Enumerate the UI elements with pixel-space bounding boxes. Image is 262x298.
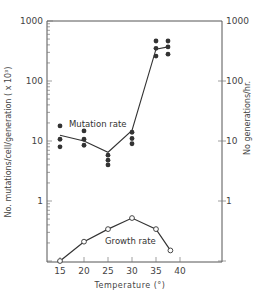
mutation-rate-point (166, 45, 171, 50)
y-right-label-1000: 1000 (226, 16, 249, 26)
x-label-20: 20 (78, 266, 90, 276)
chart: 1000 100 10 1 1000 100 10 1 15 20 25 30 … (0, 0, 262, 298)
right-axis-title: No generations/hr. (243, 81, 252, 155)
x-label-15: 15 (54, 266, 65, 276)
mutation-rate-point (106, 162, 111, 167)
y-left-label-100: 100 (26, 76, 43, 86)
x-label-25: 25 (102, 266, 113, 276)
growth-rate-label: Growth rate (105, 236, 156, 246)
growth-rate-point (168, 248, 173, 253)
growth-rate-point (130, 216, 135, 221)
mutation-rate-point (166, 52, 171, 57)
mutation-rate-point (130, 136, 135, 141)
mutation-rate-point (154, 46, 159, 51)
x-axis-title: Temperature (°) (94, 281, 166, 290)
x-label-40: 40 (174, 266, 186, 276)
mutation-rate-point (82, 143, 87, 148)
mutation-rate-series (58, 39, 171, 168)
growth-rate-point (106, 227, 111, 232)
x-axis-ticks (60, 257, 180, 262)
mutation-rate-point (82, 137, 87, 142)
y-left-label-10: 10 (32, 136, 44, 146)
mutation-rate-point (58, 124, 63, 129)
y-right-label-100: 100 (226, 76, 243, 86)
mutation-rate-point (166, 39, 171, 44)
mutation-rate-point (130, 141, 135, 146)
left-axis-title: No. mutations/cell/generation ( x 10³) (4, 67, 13, 218)
mutation-rate-point (106, 158, 111, 163)
mutation-rate-point (130, 130, 135, 135)
left-axis-ticks (47, 21, 53, 261)
growth-rate-point (58, 259, 63, 264)
mutation-rate-point (154, 39, 159, 44)
mutation-rate-point (58, 137, 63, 142)
y-left-label-1: 1 (37, 196, 43, 206)
mutation-rate-point (58, 144, 63, 149)
y-right-label-10: 10 (226, 136, 238, 146)
mutation-rate-point (106, 153, 111, 158)
growth-rate-point (82, 239, 87, 244)
y-left-label-1000: 1000 (20, 16, 43, 26)
mutation-rate-point (154, 54, 159, 59)
x-label-30: 30 (126, 266, 138, 276)
growth-rate-point (154, 227, 159, 232)
mutation-rate-point (82, 129, 87, 134)
mutation-rate-label: Mutation rate (69, 119, 127, 129)
plot-frame (47, 21, 222, 262)
y-right-label-1: 1 (226, 196, 232, 206)
x-label-35: 35 (150, 266, 161, 276)
